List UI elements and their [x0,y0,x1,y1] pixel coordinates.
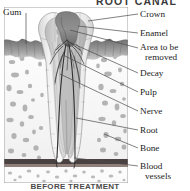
label-bone: Bone [140,143,159,153]
label-root: Root [140,125,158,135]
label-enamel: Enamel [140,28,168,38]
figure-caption: BEFORE TREATMENT [0,183,150,191]
figure-title-strip: ROOT CANAL [0,0,190,7]
leader-crown [88,14,138,21]
label-decay: Decay [140,68,163,78]
label-blood-line1: Blood [140,161,162,171]
label-pulp: Pulp [140,87,157,97]
label-area-to-be-removed: Area to be removed [140,42,186,62]
label-area-line1: Area to be [140,42,178,52]
tooth-diagram-figure: ROOT CANAL BEFORE TREATMENT Gum Crown En… [0,0,190,191]
label-crown: Crown [140,9,165,19]
figure-title: ROOT CANAL [96,0,177,7]
label-blood-vessels: Blood vessels [140,161,186,181]
label-blood-line2: vessels [140,171,186,181]
label-gum: Gum [3,7,21,17]
label-nerve: Nerve [140,106,162,116]
label-area-line2: removed [140,52,186,62]
figure-caption-strip: BEFORE TREATMENT [0,183,190,191]
